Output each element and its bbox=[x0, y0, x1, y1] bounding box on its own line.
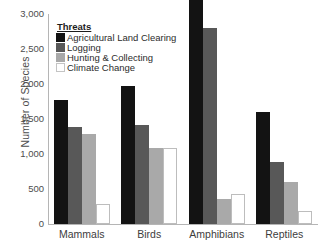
y-tick-label: 1,000 bbox=[10, 149, 44, 159]
x-axis-category-label: Amphibians bbox=[183, 228, 251, 240]
x-axis-line bbox=[48, 224, 318, 225]
bar bbox=[135, 125, 149, 224]
legend-item: Climate Change bbox=[56, 63, 188, 73]
legend-swatch-icon bbox=[56, 53, 65, 62]
y-tick-label: 3,000 bbox=[10, 9, 44, 19]
bar bbox=[163, 148, 177, 224]
bar bbox=[298, 211, 312, 224]
bar bbox=[270, 162, 284, 224]
legend-swatch-icon bbox=[56, 33, 65, 42]
bar-group bbox=[189, 14, 245, 224]
bar bbox=[203, 28, 217, 224]
bar bbox=[217, 199, 231, 224]
y-tick-label: 2,500 bbox=[10, 44, 44, 54]
x-axis-category-label: Reptiles bbox=[251, 228, 319, 240]
legend: Threats Agricultural Land ClearingLoggin… bbox=[56, 22, 188, 73]
legend-swatch-icon bbox=[56, 63, 65, 72]
bar bbox=[189, 0, 203, 224]
bar bbox=[284, 182, 298, 224]
legend-swatch-icon bbox=[56, 43, 65, 52]
x-axis-category-label: Birds bbox=[116, 228, 184, 240]
bar-group bbox=[256, 14, 312, 224]
y-tick-label: 1,500 bbox=[10, 114, 44, 124]
bar bbox=[96, 204, 110, 224]
legend-label: Climate Change bbox=[67, 63, 135, 73]
bar-chart: Number of Species 05001,0001,5002,0002,5… bbox=[0, 0, 325, 251]
bar bbox=[82, 134, 96, 224]
bar bbox=[231, 194, 245, 224]
bar bbox=[149, 148, 163, 224]
bar bbox=[68, 127, 82, 224]
bar bbox=[121, 86, 135, 224]
y-tick-label: 500 bbox=[10, 184, 44, 194]
y-tick-label: 2,000 bbox=[10, 79, 44, 89]
x-axis-category-label: Mammals bbox=[48, 228, 116, 240]
bar bbox=[54, 100, 68, 224]
y-axis-tick-labels: 05001,0001,5002,0002,5003,000 bbox=[8, 0, 44, 251]
legend-rows: Agricultural Land ClearingLoggingHunting… bbox=[56, 33, 188, 73]
y-tick-label: 0 bbox=[10, 219, 44, 229]
bar bbox=[256, 112, 270, 224]
